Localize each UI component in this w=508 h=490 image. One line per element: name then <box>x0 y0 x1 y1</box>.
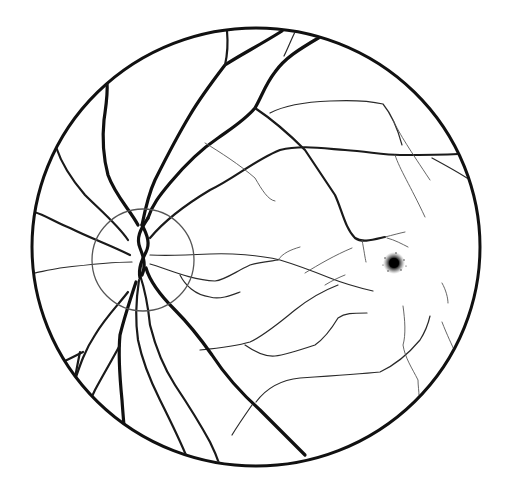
inferior-twig-top <box>442 283 448 303</box>
fundus-boundary <box>32 28 480 466</box>
temporal-mid-vessel-1 <box>150 254 373 291</box>
superior-twig-b <box>393 120 430 180</box>
superior-twig-a <box>395 155 425 217</box>
superior-twig-d <box>385 232 405 237</box>
superior-branch-top <box>225 31 228 65</box>
fundus-svg <box>0 0 508 490</box>
temporal-mid-vessel-2 <box>150 260 278 281</box>
superior-twig-e <box>387 238 408 247</box>
nasal-horizontal-vessel <box>34 262 132 273</box>
inferior-arcade-lower <box>256 316 430 402</box>
superior-twig-f <box>362 240 366 262</box>
inferior-branch-upper <box>200 285 338 350</box>
superior-horizontal-vessel <box>150 147 458 238</box>
superior-temporal-vein <box>142 31 282 225</box>
superior-nasal-vessel <box>103 82 138 225</box>
superior-arcade-upper <box>270 101 402 145</box>
temporal-twig-2 <box>305 248 352 273</box>
inferior-temporal-artery <box>140 275 220 466</box>
nasal-mid-vessel <box>34 212 130 255</box>
inferior-nasal-lower <box>88 345 120 412</box>
fundus-diagram <box>0 0 508 490</box>
temporal-arc-loop <box>180 275 240 298</box>
inferior-cross-vessel <box>232 405 252 435</box>
fovea-spot <box>382 252 406 274</box>
inferior-nasal-vessel <box>119 282 136 438</box>
superior-temporal-branch <box>255 108 385 241</box>
vessel-network <box>34 31 470 466</box>
inferior-temporal-vein <box>146 268 305 455</box>
temporal-twig-1 <box>278 247 300 260</box>
superior-temporal-artery <box>148 37 320 218</box>
